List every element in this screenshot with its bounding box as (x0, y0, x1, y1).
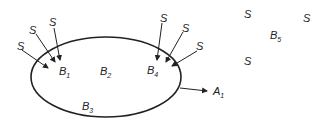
label-b1: B1 (59, 65, 70, 79)
source-arrow (54, 28, 60, 60)
source-label: S (160, 12, 168, 24)
source-label: S (29, 24, 37, 36)
source-arrow (166, 32, 183, 62)
label-b5: B5 (270, 29, 281, 43)
output-arrow (180, 88, 207, 91)
source-arrow (172, 51, 197, 66)
label-a1: A1 (212, 85, 224, 99)
diagram-canvas: S S S S S S S S S B1 B2 B3 B4 B5 A1 (0, 0, 326, 124)
source-label: S (49, 16, 57, 28)
source-label: S (196, 40, 204, 52)
source-label: S (244, 8, 252, 20)
label-b2: B2 (100, 65, 111, 79)
source-arrow (22, 50, 48, 68)
source-arrow (157, 23, 162, 60)
source-label: S (17, 40, 25, 52)
label-b4: B4 (147, 64, 158, 78)
label-b3: B3 (82, 100, 93, 114)
diagram-svg: S S S S S S S S S B1 B2 B3 B4 B5 A1 (0, 0, 326, 124)
source-label: S (303, 12, 311, 24)
source-label: S (182, 22, 190, 34)
source-label: S (244, 55, 252, 67)
